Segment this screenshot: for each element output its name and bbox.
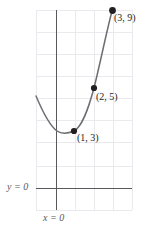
graph-figure: (3, 9) (2, 5) (1, 3) y = 0 x = 0 [0,0,147,232]
point-label-3-9: (3, 9) [114,12,136,23]
x-axis-label: x = 0 [43,212,64,223]
y-axis-label: y = 0 [7,181,28,192]
grid-lines [36,10,133,211]
coordinate-plane [0,0,147,232]
function-curve [36,11,112,133]
point-label-1-3: (1, 3) [77,132,99,143]
point-label-2-5: (2, 5) [96,91,118,102]
